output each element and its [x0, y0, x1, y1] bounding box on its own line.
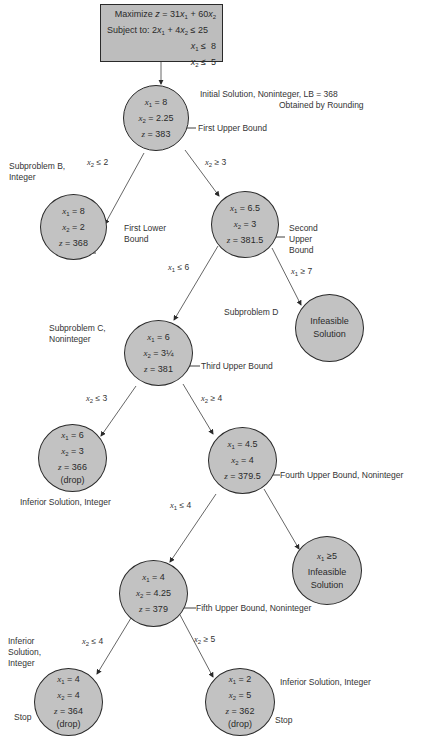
second-upper-1: Second	[289, 223, 318, 234]
constraint-row-3: x2 ≤ 5	[107, 56, 216, 72]
inferior-i-2: Solution,	[8, 647, 41, 658]
objective-row: Maximize z = 31x1 + 60x2	[107, 8, 216, 24]
obtained-by-rounding-label: Obtained by Rounding	[279, 100, 364, 111]
node-inferior-e: x1 = 6 x2 = 3 z = 366 (drop)	[38, 424, 107, 492]
inferior-solution-j-label: Inferior Solution, Integer	[280, 677, 371, 688]
branch-x2-ge-3: x2 ≥ 3	[205, 157, 226, 171]
branch-x2-le-4: x2 ≤ 4	[82, 636, 103, 650]
inferior-i-1: Inferior	[8, 636, 34, 647]
fourth-upper-bound-label: Fourth Upper Bound, Noninteger	[280, 470, 403, 481]
first-lower-bound-1: First Lower	[124, 223, 166, 234]
inferior-i-3: Integer	[8, 658, 34, 669]
branch-x2-ge-4: x2 ≥ 4	[201, 393, 222, 407]
edge-a-b	[105, 153, 144, 224]
edge-c-f	[183, 384, 213, 434]
node-initial-solution: x1 = 8 x2 = 2.25 z = 383	[123, 85, 189, 151]
node-subproblem-c: x1 = 6 x2 = 3¼ z = 381	[124, 320, 193, 386]
node-subproblem-b: x1 = 8 x2 = 2 z = 368	[40, 194, 107, 260]
initial-solution-label: Initial Solution, Noninteger, LB = 368	[200, 89, 338, 100]
fifth-upper-bound-label: Fifth Upper Bound, Noninteger	[196, 603, 311, 614]
second-upper-2: Upper	[289, 234, 312, 245]
subproblem-c-noninteger: Noninteger	[49, 334, 91, 345]
subproblem-b-label: Subproblem B,	[9, 161, 65, 172]
branch-x2-ge-5: x2 ≥ 5	[194, 634, 215, 648]
branch-x2-le-3: x2 ≤ 3	[86, 393, 107, 407]
problem-statement-box: Maximize z = 31x1 + 60x2 Subject to: 2x1…	[100, 4, 223, 62]
first-lower-bound-2: Bound	[124, 234, 149, 245]
subproblem-d-label: Subproblem D	[224, 307, 278, 318]
constraint-row-1: Subject to: 2x1 + 4x2 ≤ 25	[107, 24, 216, 40]
third-upper-bound-label: Third Upper Bound	[201, 361, 273, 372]
node-fourth-upper-bound: x1 = 4.5 x2 = 4 z = 379.5	[208, 427, 277, 494]
branch-x1-le-6: x1 ≤ 6	[168, 262, 189, 276]
edge-f-h	[264, 489, 299, 549]
node-fifth-upper-bound: x1 = 4 x2 = 4.25 z = 379	[119, 560, 188, 627]
node-subproblem-d-infeasible: Infeasible Solution	[295, 294, 364, 362]
node-second-upper-bound: x1 = 6.5 x2 = 3 z = 381.5	[211, 191, 279, 258]
node-inferior-j: x1 = 2 x2 = 5 z = 362 (drop)	[205, 668, 275, 736]
node-inferior-i: x1 = 4 x2 = 4 z = 364 (drop)	[34, 668, 103, 736]
branch-and-bound-tree: Maximize z = 31x1 + 60x2 Subject to: 2x1…	[0, 0, 425, 746]
node-infeasible-h: x1 ≥5 Infeasible Solution	[292, 536, 362, 605]
inferior-solution-e-label: Inferior Solution, Integer	[20, 497, 111, 508]
constraint-row-2: x1 ≤ 8	[107, 40, 216, 56]
branch-x1-le-4: x1 ≤ 4	[170, 500, 191, 514]
subproblem-b-integer: Integer	[9, 172, 35, 183]
branch-x1-ge-7: x1 ≥ 7	[291, 266, 312, 280]
second-upper-3: Bound	[289, 245, 314, 256]
first-upper-bound-label: First Upper Bound	[198, 123, 267, 134]
stop-label-j: Stop	[275, 715, 293, 726]
stop-label-i: Stop	[14, 712, 32, 723]
edge-b2-c	[174, 246, 218, 320]
branch-x2-le-2: x2 ≤ 2	[87, 157, 108, 171]
subproblem-c-label: Subproblem C,	[49, 323, 106, 334]
